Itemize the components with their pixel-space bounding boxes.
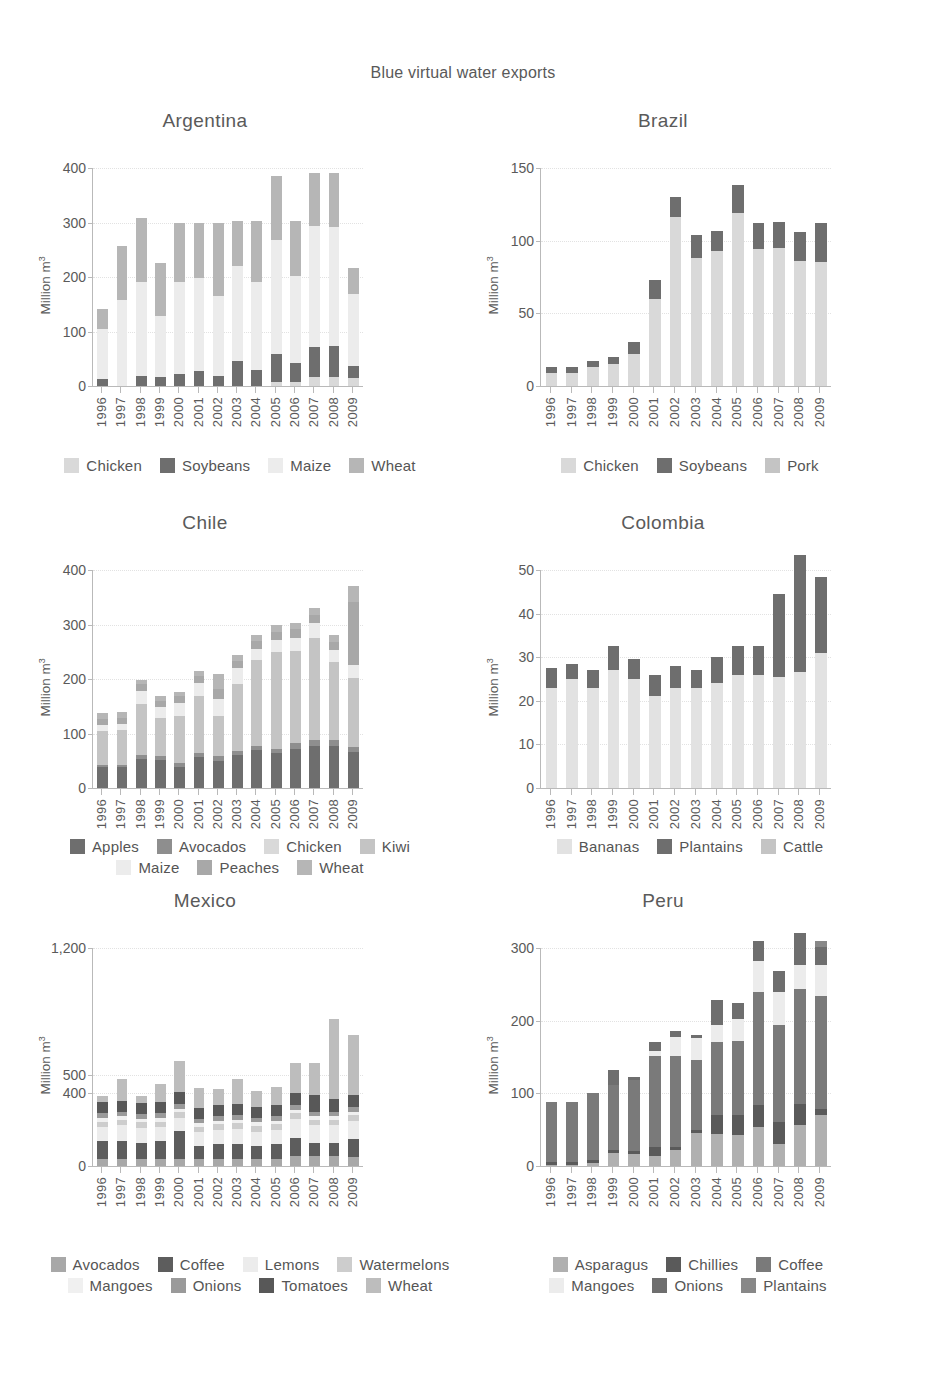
legend-item[interactable]: Apples bbox=[70, 838, 139, 855]
stacked-bar[interactable] bbox=[194, 671, 205, 788]
legend-item[interactable]: Tomatoes bbox=[259, 1277, 348, 1294]
stacked-bar[interactable] bbox=[566, 1102, 578, 1166]
stacked-bar[interactable] bbox=[155, 1084, 166, 1166]
stacked-bar[interactable] bbox=[815, 941, 827, 1166]
stacked-bar[interactable] bbox=[194, 1088, 205, 1166]
stacked-bar[interactable] bbox=[309, 608, 320, 788]
stacked-bar[interactable] bbox=[194, 223, 205, 386]
legend-item[interactable]: Wheat bbox=[349, 457, 415, 474]
stacked-bar[interactable] bbox=[587, 670, 599, 788]
stacked-bar[interactable] bbox=[174, 692, 185, 788]
legend-item[interactable]: Avocados bbox=[157, 838, 246, 855]
stacked-bar[interactable] bbox=[608, 357, 620, 386]
stacked-bar[interactable] bbox=[348, 1035, 359, 1166]
stacked-bar[interactable] bbox=[691, 670, 703, 788]
stacked-bar[interactable] bbox=[174, 1061, 185, 1166]
stacked-bar[interactable] bbox=[753, 223, 765, 386]
legend-item[interactable]: Avocados bbox=[51, 1256, 140, 1273]
legend-item[interactable]: Chicken bbox=[264, 838, 342, 855]
stacked-bar[interactable] bbox=[174, 223, 185, 386]
stacked-bar[interactable] bbox=[628, 659, 640, 788]
legend-item[interactable]: Pork bbox=[765, 457, 819, 474]
legend-item[interactable]: Plantains bbox=[741, 1277, 827, 1294]
legend-item[interactable]: Cattle bbox=[761, 838, 823, 855]
legend-item[interactable]: Chicken bbox=[561, 457, 639, 474]
stacked-bar[interactable] bbox=[608, 1070, 620, 1166]
stacked-bar[interactable] bbox=[815, 223, 827, 386]
stacked-bar[interactable] bbox=[670, 197, 682, 386]
stacked-bar[interactable] bbox=[329, 1019, 340, 1166]
stacked-bar[interactable] bbox=[309, 1063, 320, 1166]
legend-item[interactable]: Coffee bbox=[756, 1256, 823, 1273]
stacked-bar[interactable] bbox=[136, 1096, 147, 1166]
legend-item[interactable]: Onions bbox=[652, 1277, 723, 1294]
stacked-bar[interactable] bbox=[691, 1035, 703, 1166]
stacked-bar[interactable] bbox=[587, 361, 599, 386]
stacked-bar[interactable] bbox=[628, 1077, 640, 1166]
stacked-bar[interactable] bbox=[155, 263, 166, 386]
stacked-bar[interactable] bbox=[773, 222, 785, 386]
stacked-bar[interactable] bbox=[546, 367, 558, 386]
legend-item[interactable]: Soybeans bbox=[657, 457, 747, 474]
stacked-bar[interactable] bbox=[271, 625, 282, 788]
legend-item[interactable]: Mangoes bbox=[68, 1277, 153, 1294]
stacked-bar[interactable] bbox=[670, 666, 682, 788]
stacked-bar[interactable] bbox=[251, 635, 262, 788]
legend-item[interactable]: Kiwi bbox=[360, 838, 410, 855]
legend-item[interactable]: Maize bbox=[116, 859, 179, 876]
legend-item[interactable]: Chicken bbox=[64, 457, 142, 474]
stacked-bar[interactable] bbox=[753, 941, 765, 1166]
legend-item[interactable]: Maize bbox=[268, 457, 331, 474]
stacked-bar[interactable] bbox=[290, 623, 301, 788]
stacked-bar[interactable] bbox=[213, 223, 224, 386]
stacked-bar[interactable] bbox=[753, 646, 765, 788]
stacked-bar[interactable] bbox=[97, 1096, 108, 1166]
stacked-bar[interactable] bbox=[136, 218, 147, 386]
stacked-bar[interactable] bbox=[232, 655, 243, 788]
stacked-bar[interactable] bbox=[794, 933, 806, 1166]
stacked-bar[interactable] bbox=[117, 1079, 128, 1166]
stacked-bar[interactable] bbox=[649, 1042, 661, 1166]
stacked-bar[interactable] bbox=[232, 221, 243, 386]
stacked-bar[interactable] bbox=[251, 1091, 262, 1166]
stacked-bar[interactable] bbox=[213, 674, 224, 788]
stacked-bar[interactable] bbox=[213, 1089, 224, 1166]
stacked-bar[interactable] bbox=[815, 577, 827, 788]
stacked-bar[interactable] bbox=[251, 221, 262, 386]
stacked-bar[interactable] bbox=[117, 712, 128, 788]
stacked-bar[interactable] bbox=[271, 1087, 282, 1166]
stacked-bar[interactable] bbox=[97, 713, 108, 788]
stacked-bar[interactable] bbox=[732, 646, 744, 788]
stacked-bar[interactable] bbox=[649, 280, 661, 386]
legend-item[interactable]: Asparagus bbox=[553, 1256, 649, 1273]
stacked-bar[interactable] bbox=[732, 1003, 744, 1166]
legend-item[interactable]: Mangoes bbox=[549, 1277, 634, 1294]
stacked-bar[interactable] bbox=[691, 235, 703, 386]
stacked-bar[interactable] bbox=[97, 309, 108, 386]
legend-item[interactable]: Chillies bbox=[666, 1256, 738, 1273]
stacked-bar[interactable] bbox=[649, 675, 661, 788]
legend-item[interactable]: Bananas bbox=[557, 838, 640, 855]
legend-item[interactable]: Onions bbox=[171, 1277, 242, 1294]
stacked-bar[interactable] bbox=[232, 1079, 243, 1166]
legend-item[interactable]: Wheat bbox=[366, 1277, 432, 1294]
stacked-bar[interactable] bbox=[794, 232, 806, 386]
legend-item[interactable]: Plantains bbox=[657, 838, 743, 855]
stacked-bar[interactable] bbox=[566, 664, 578, 788]
stacked-bar[interactable] bbox=[773, 594, 785, 788]
legend-item[interactable]: Watermelons bbox=[337, 1256, 449, 1273]
stacked-bar[interactable] bbox=[794, 555, 806, 788]
stacked-bar[interactable] bbox=[329, 173, 340, 386]
stacked-bar[interactable] bbox=[348, 268, 359, 386]
stacked-bar[interactable] bbox=[290, 1063, 301, 1166]
stacked-bar[interactable] bbox=[329, 635, 340, 788]
stacked-bar[interactable] bbox=[732, 185, 744, 386]
stacked-bar[interactable] bbox=[136, 680, 147, 788]
stacked-bar[interactable] bbox=[309, 173, 320, 386]
stacked-bar[interactable] bbox=[711, 657, 723, 788]
stacked-bar[interactable] bbox=[155, 696, 166, 788]
stacked-bar[interactable] bbox=[587, 1093, 599, 1166]
stacked-bar[interactable] bbox=[711, 1000, 723, 1166]
legend-item[interactable]: Wheat bbox=[297, 859, 363, 876]
stacked-bar[interactable] bbox=[711, 231, 723, 387]
